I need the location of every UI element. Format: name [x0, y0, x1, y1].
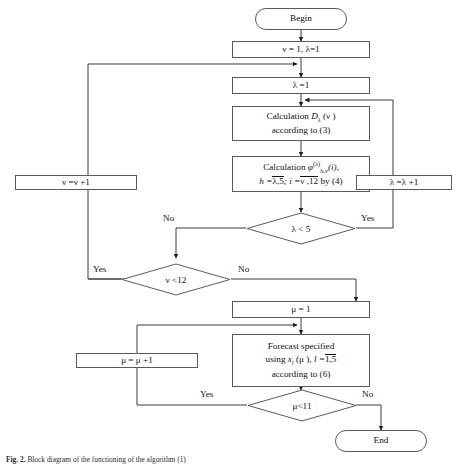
node-forecast-line1: Forecast specified — [268, 340, 335, 353]
edge-label-nu-no: No — [238, 264, 249, 274]
node-increment-lambda-label: λ =λ +1 — [390, 176, 418, 189]
edge-label-mu-yes: Yes — [200, 389, 213, 399]
node-init-mu-label: μ = 1 — [291, 303, 310, 316]
node-begin[interactable]: Begin — [255, 8, 347, 30]
node-increment-nu[interactable]: ν =ν +1 — [15, 175, 137, 190]
calculation-d-word: Calculation — [267, 111, 309, 121]
calculation-phi-i-range: ν ,12 — [300, 176, 318, 187]
edge-label-mu-no: No — [362, 389, 373, 399]
node-increment-nu-label: ν =ν +1 — [62, 176, 90, 189]
connector-lines — [0, 0, 456, 472]
node-calculation-phi[interactable]: Calculation φ(λ)h,ν(i), h =λ,5; i =ν ,12… — [232, 156, 370, 192]
calculation-phi-i: ; i = — [284, 176, 300, 186]
calculation-phi-ref: by (4) — [320, 176, 342, 186]
node-forecast-line2: using xl (μ ), l =1,5 — [266, 353, 337, 367]
decision-lambda-lt-5[interactable]: λ < 5 — [246, 212, 356, 245]
figure-caption-text: Block diagram of the functioning of the … — [27, 455, 185, 464]
node-calculation-d[interactable]: Calculation Dλ (ν ) according to (3) — [232, 106, 370, 141]
node-end-label: End — [374, 434, 389, 447]
node-calculation-d-line2: according to (3) — [272, 124, 331, 137]
calculation-phi-h: h = — [259, 176, 272, 186]
forecast-l-range: 1,5 — [325, 354, 336, 365]
figure-caption: Fig. 2. Block diagram of the functioning… — [6, 455, 450, 465]
node-increment-mu-label: μ = μ +1 — [121, 354, 153, 367]
calculation-d-symbol: D — [311, 111, 318, 121]
node-calculation-phi-line2: h =λ,5; i =ν ,12 by (4) — [259, 175, 342, 188]
calculation-phi-arg: (i), — [328, 162, 339, 172]
decision-nu-lt-12[interactable]: ν <12 — [121, 263, 231, 296]
figure-caption-label: Fig. 2. — [6, 455, 26, 464]
decision-lambda-lt-5-label: λ < 5 — [246, 212, 356, 245]
node-increment-mu[interactable]: μ = μ +1 — [76, 353, 198, 368]
node-forecast-line3: according to (6) — [272, 368, 331, 381]
node-init-nu-lambda-label: ν = 1, λ=1 — [282, 43, 319, 56]
flowchart-canvas: Begin ν = 1, λ=1 λ =1 Calculation Dλ (ν … — [0, 0, 456, 472]
forecast-x-arg: (μ ), — [296, 354, 312, 364]
node-calculation-d-line1: Calculation Dλ (ν ) — [267, 110, 336, 124]
calculation-phi-subscript: h,ν — [320, 167, 328, 174]
node-init-lambda[interactable]: λ =1 — [232, 77, 370, 94]
node-begin-label: Begin — [290, 12, 312, 25]
decision-mu-lt-11-label: μ<11 — [247, 389, 357, 422]
node-init-nu-lambda[interactable]: ν = 1, λ=1 — [232, 41, 370, 58]
decision-mu-lt-11[interactable]: μ<11 — [247, 389, 357, 422]
node-end[interactable]: End — [335, 430, 427, 452]
calculation-d-subscript: λ — [318, 116, 321, 123]
calculation-phi-h-range: λ,5 — [272, 176, 283, 187]
forecast-x-subscript: l — [292, 359, 294, 366]
edge-label-lambda-yes: Yes — [361, 213, 374, 223]
node-forecast[interactable]: Forecast specified using xl (μ ), l =1,5… — [232, 334, 370, 387]
forecast-using-word: using — [266, 354, 286, 364]
node-init-mu[interactable]: μ = 1 — [232, 301, 370, 318]
node-calculation-phi-line1: Calculation φ(λ)h,ν(i), — [263, 159, 339, 175]
edge-label-nu-yes: Yes — [93, 264, 106, 274]
edge-label-lambda-no: No — [163, 213, 174, 223]
decision-nu-lt-12-label: ν <12 — [121, 263, 231, 296]
node-increment-lambda[interactable]: λ =λ +1 — [356, 175, 452, 190]
forecast-l-eq: l = — [314, 354, 325, 364]
calculation-d-arg: (ν ) — [323, 111, 336, 121]
calculation-phi-word: Calculation — [263, 162, 305, 172]
node-init-lambda-label: λ =1 — [293, 79, 310, 92]
